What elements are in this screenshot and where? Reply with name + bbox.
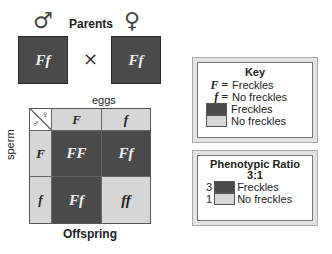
sperm-allele-1: F xyxy=(30,131,52,177)
cross-icon: × xyxy=(83,48,98,69)
offspring-label: Offspring xyxy=(63,227,117,241)
male-genotype: Ff xyxy=(36,52,51,69)
key-panel: Key F = Freckles f = No freckles Freckle… xyxy=(192,57,318,143)
offspring-cell-FF: FF xyxy=(52,131,102,177)
punnett-square: ♂ ♀ F f F FF Ff f Ff ff xyxy=(29,108,151,224)
key-swatch-row: Freckles xyxy=(206,103,304,115)
light-swatch xyxy=(206,115,227,127)
ratio-value: 3:1 xyxy=(206,170,304,181)
key-item: f = No freckles xyxy=(206,91,304,103)
corner-cell: ♂ ♀ xyxy=(30,109,52,131)
key-swatch-row: No freckles xyxy=(206,115,304,127)
parents-title: Parents xyxy=(69,17,113,31)
dark-swatch xyxy=(214,181,235,193)
offspring-cell-ff: ff xyxy=(102,177,150,223)
ratio-row: 3 Freckles xyxy=(206,181,304,193)
ratio-panel: Phenotypic Ratio 3:1 3 Freckles 1 No fre… xyxy=(192,150,318,226)
female-symbol-icon: ♀ xyxy=(42,109,50,120)
sperm-label: sperm xyxy=(4,129,16,160)
eggs-label: eggs xyxy=(92,94,116,106)
dark-swatch xyxy=(206,103,227,115)
egg-allele-2: f xyxy=(102,109,150,131)
male-symbol-icon: ♂ xyxy=(33,10,53,32)
ratio-row: 1 No freckles xyxy=(206,193,304,205)
female-genotype: Ff xyxy=(129,52,144,69)
female-parent-box: Ff xyxy=(111,36,161,84)
male-parent-box: Ff xyxy=(18,36,68,84)
light-swatch xyxy=(214,193,235,205)
egg-allele-1: F xyxy=(52,109,102,131)
offspring-cell-Ff-2: Ff xyxy=(52,177,102,223)
male-symbol-icon: ♂ xyxy=(32,118,40,129)
key-title: Key xyxy=(206,66,304,78)
offspring-cell-Ff-1: Ff xyxy=(102,131,150,177)
female-symbol-icon: ♀ xyxy=(124,10,140,32)
sperm-allele-2: f xyxy=(30,177,52,223)
